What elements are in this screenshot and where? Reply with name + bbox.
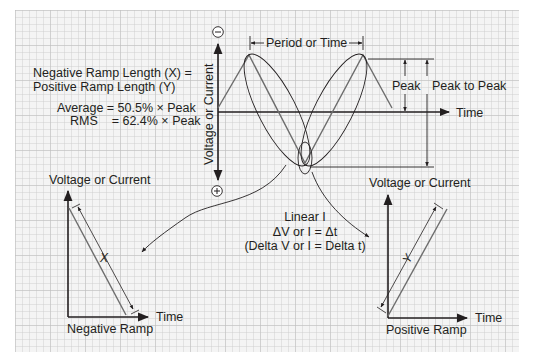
ramp-length-line1: Negative Ramp Length (X) =: [33, 66, 192, 80]
negative-ramp-title: Negative Ramp: [67, 322, 153, 336]
positive-ramp-y-label: Voltage or Current: [369, 176, 471, 190]
negative-polarity-icon: [213, 27, 224, 38]
negative-ramp-y-label: Voltage or Current: [49, 173, 151, 187]
linear-note-line1: Linear I: [284, 210, 326, 224]
linear-note-line3: (Delta V or I = Delta t): [244, 239, 365, 253]
positive-ramp-x-label: Time: [475, 311, 502, 325]
ramp-length-line2: Positive Ramp Length (Y): [33, 80, 175, 94]
negative-ramp-x-label: Time: [156, 310, 183, 324]
positive-polarity-icon: [212, 186, 223, 197]
period-label: Period or Time: [266, 36, 347, 50]
positive-ramp-title: Positive Ramp: [386, 323, 467, 337]
average-formula: Average = 50.5% × Peak: [57, 101, 197, 115]
main-x-axis-label: Time: [456, 106, 483, 120]
linear-note-line2: ΔV or I = Δt: [273, 225, 338, 239]
main-y-axis-label: Voltage or Current: [202, 63, 216, 165]
waveform-diagram: Negative Ramp Length (X) = Positive Ramp…: [0, 0, 535, 364]
peak-to-peak-label: Peak to Peak: [432, 79, 507, 93]
rms-formula: RMS = 62.4% × Peak: [70, 114, 201, 128]
peak-label: Peak: [392, 79, 421, 93]
negative-ramp-length-symbol: X: [99, 251, 109, 265]
period-dimension: Period or Time: [250, 36, 363, 50]
